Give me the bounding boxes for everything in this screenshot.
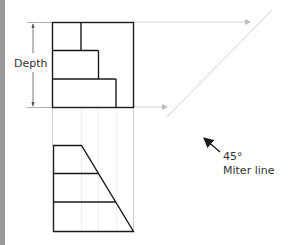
angle-label: 45° xyxy=(223,150,243,163)
front-view xyxy=(54,146,134,232)
projection-drawing: Depth 45° Miter line xyxy=(0,0,288,245)
projection-lines xyxy=(53,22,251,232)
miter-line xyxy=(167,10,272,117)
miter-label: Miter line xyxy=(223,164,275,177)
miter-callout-arrow xyxy=(205,139,220,152)
top-view xyxy=(53,23,134,108)
depth-label: Depth xyxy=(14,57,48,70)
